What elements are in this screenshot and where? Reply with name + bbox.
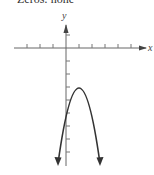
left-arrow-icon bbox=[55, 157, 62, 166]
x-axis-label: x bbox=[147, 42, 153, 53]
y-axis bbox=[64, 24, 71, 166]
y-axis-arrow-icon bbox=[64, 24, 69, 33]
parabola-curve bbox=[58, 88, 100, 162]
y-axis-label: y bbox=[61, 10, 67, 21]
parabola-graph: x y bbox=[0, 0, 154, 175]
right-arrow-icon bbox=[97, 157, 104, 166]
x-axis-arrow-icon bbox=[139, 46, 147, 51]
x-axis bbox=[14, 44, 147, 51]
